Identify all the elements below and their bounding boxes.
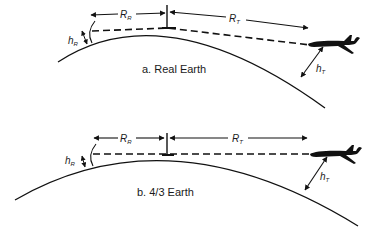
rt-label: RT [229,13,241,25]
airplane-icon [310,145,362,164]
airplane-icon [308,35,360,54]
radar-horizon-diagram: RR RT hR hT a. Real Earth RR RT hR [0,0,375,237]
rr-label: RR [120,9,132,21]
rr-label: RR [120,133,132,145]
hr-beam-arc [91,144,96,166]
hr-label: hR [65,155,76,167]
caption-four-thirds-earth: b. 4/3 Earth [137,186,194,198]
hr-beam-arc [90,21,95,43]
rt-range-arrow [170,12,226,17]
rt-label: RT [232,133,244,145]
ht-label: hT [320,171,331,183]
caption-real-earth: a. Real Earth [142,63,206,75]
hr-label: hR [68,35,79,47]
panel-real-earth: RR RT hR hT a. Real Earth [58,5,360,108]
panel-four-thirds-earth: RR RT hR hT b. 4/3 Earth [15,133,362,226]
rr-range-arrow [91,14,118,15]
ht-label: hT [316,63,327,75]
hr-height-arrow [82,31,87,44]
hr-height-arrow [82,156,85,167]
